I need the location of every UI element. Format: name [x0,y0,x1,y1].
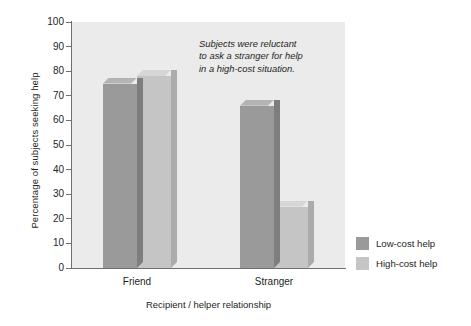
y-tick-label-40: 40 [53,165,64,175]
x-label-friend: Friend [87,276,187,287]
y-tick-label-80: 80 [53,66,64,76]
bar-stranger-low-cost-help [240,106,274,268]
y-tick-label-20: 20 [53,214,64,224]
y-tick-label-90: 90 [53,42,64,52]
legend-swatch-low-cost-help [356,237,369,250]
legend-swatch-high-cost-help [356,257,369,270]
legend: Low-cost help High-cost help [356,237,437,277]
y-tick-label-0: 0 [58,263,64,273]
bar-side-face [171,70,177,268]
y-tick-30 [66,194,71,195]
y-tick-label-70: 70 [53,91,64,101]
legend-label-low-cost-help: Low-cost help [376,238,435,249]
x-axis-line [71,268,346,269]
y-tick-label-60: 60 [53,115,64,125]
y-tick-100 [66,22,71,23]
bar-friend-low-cost-help [103,84,137,269]
bar-side-face [137,78,143,269]
bar-front-face [103,84,137,269]
bar-chart: Percentage of subjects seeking help 0102… [0,0,471,326]
legend-item-low-cost-help: Low-cost help [356,237,437,250]
legend-item-high-cost-help: High-cost help [356,257,437,270]
bar-side-face [274,100,280,268]
y-tick-60 [66,120,71,121]
y-tick-40 [66,169,71,170]
x-label-stranger: Stranger [224,276,324,287]
bar-front-face [240,106,274,268]
annotation-line-1: Subjects were reluctant [199,38,349,50]
y-tick-50 [66,145,71,146]
y-axis-line [71,21,72,269]
y-tick-0 [66,268,71,269]
y-axis-title: Percentage of subjects seeking help [29,41,40,261]
y-tick-label-100: 100 [47,17,64,27]
y-tick-20 [66,218,71,219]
y-tick-label-30: 30 [53,189,64,199]
annotation-line-2: to ask a stranger for help [199,50,349,62]
y-tick-90 [66,46,71,47]
y-tick-label-50: 50 [53,140,64,150]
y-tick-10 [66,243,71,244]
x-axis-title: Recipient / helper relationship [72,299,345,310]
y-tick-80 [66,71,71,72]
y-tick-label-10: 10 [53,238,64,248]
legend-label-high-cost-help: High-cost help [376,258,437,269]
y-tick-70 [66,95,71,96]
annotation-note: Subjects were reluctant to ask a strange… [199,38,349,75]
bar-side-face [308,201,314,269]
annotation-line-3: in a high-cost situation. [199,63,349,75]
